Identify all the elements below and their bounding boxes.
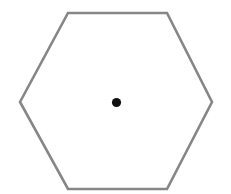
center-point-dot xyxy=(112,98,121,107)
hexagon-figure-svg xyxy=(0,0,231,194)
figure-canvas xyxy=(0,0,231,194)
